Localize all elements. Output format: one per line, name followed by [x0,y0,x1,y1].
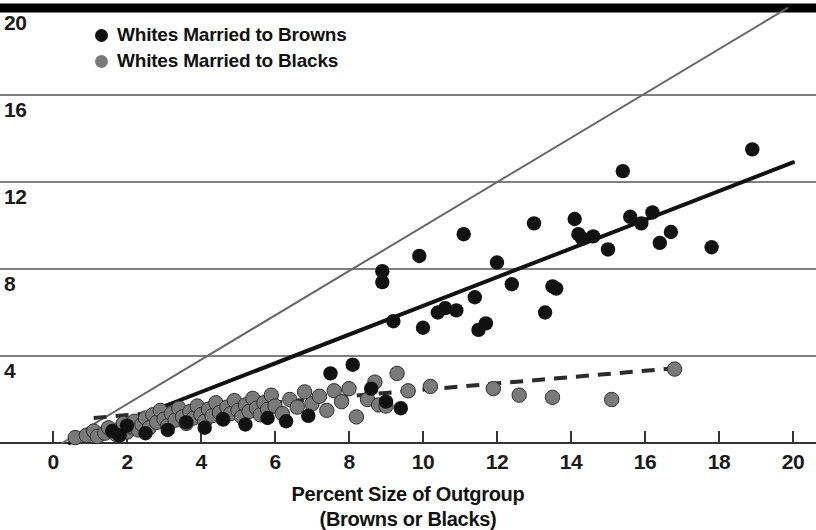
data-point [479,316,493,330]
data-point [346,358,360,372]
data-point [667,362,681,376]
data-point [375,275,389,289]
x-tick-label-4: 4 [181,451,221,472]
data-point [364,381,378,395]
x-axis-title-line2: (Browns or Blacks) [0,507,816,530]
legend-label-browns: Whites Married to Browns [117,24,347,46]
chart-legend: Whites Married to Browns Whites Married … [95,22,347,74]
data-point [568,212,582,226]
series-browns [105,142,760,442]
data-point [449,303,463,317]
data-point [545,390,559,404]
x-axis-title-line1: Percent Size of Outgroup [0,482,816,507]
y-tick-label-4: 4 [4,360,15,381]
data-point [601,242,615,256]
legend-label-blacks: Whites Married to Blacks [117,50,338,72]
x-tick-label-14: 14 [551,451,591,472]
y-tick-label-16: 16 [4,99,26,120]
data-point [538,305,552,319]
series-blacks [68,362,682,445]
data-point [386,314,400,328]
data-point [138,426,152,440]
data-point [279,414,293,428]
data-point [179,415,193,429]
data-point [198,421,212,435]
data-point [216,412,230,426]
x-tick-label-8: 8 [329,451,369,472]
data-point [645,205,659,219]
data-point [342,381,356,395]
data-point [379,394,393,408]
x-tick-label-18: 18 [699,451,739,472]
legend-item-browns: Whites Married to Browns [95,22,347,48]
data-point [512,388,526,402]
data-point [320,403,334,417]
data-point [664,225,678,239]
legend-item-blacks: Whites Married to Blacks [95,48,347,74]
data-point [161,423,175,437]
data-point [549,281,563,295]
data-point [260,411,274,425]
data-point [490,255,504,269]
data-point [653,236,667,250]
data-point [586,229,600,243]
data-point [401,384,415,398]
x-tick-label-10: 10 [403,451,443,472]
data-point [486,381,500,395]
data-point [349,410,363,424]
data-point [505,277,519,291]
data-point [527,216,541,230]
y-tick-label-12: 12 [4,186,26,207]
data-point [745,142,759,156]
y-tick-label-20: 20 [4,12,26,33]
data-point [312,389,326,403]
x-tick-label-16: 16 [625,451,665,472]
x-tick-label-0: 0 [33,451,73,472]
data-point [120,418,134,432]
data-point [394,401,408,415]
data-point [457,227,471,241]
data-point [634,216,648,230]
chart-figure: Whites Married to Browns Whites Married … [0,0,816,530]
legend-marker-blacks-icon [95,55,108,68]
data-point [238,417,252,431]
y-tick-label-8: 8 [4,273,15,294]
x-tick-label-2: 2 [107,451,147,472]
x-tick-label-12: 12 [477,451,517,472]
data-point [301,409,315,423]
legend-marker-browns-icon [95,29,108,42]
data-point [704,240,718,254]
data-point [390,366,404,380]
data-point [468,290,482,304]
data-point [616,164,630,178]
x-tick-label-20: 20 [773,451,813,472]
data-point [605,392,619,406]
data-point [323,366,337,380]
data-point [334,394,348,408]
data-point [423,379,437,393]
data-point [416,321,430,335]
x-tick-label-6: 6 [255,451,295,472]
x-axis-title: Percent Size of Outgroup (Browns or Blac… [0,482,816,530]
data-point [412,249,426,263]
